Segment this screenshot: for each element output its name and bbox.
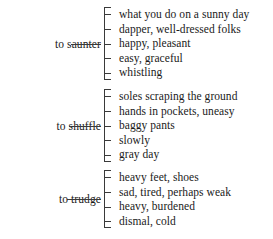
- list-item: baggy pants: [119, 118, 273, 133]
- list-item: sad, tired, perhaps weak: [119, 185, 273, 200]
- bracket-diagram: to saunterwhat you do on a sunny daydapp…: [0, 0, 273, 239]
- bracket-tick: [104, 14, 111, 15]
- bracket-tick: [104, 58, 111, 59]
- item-list: heavy feet, shoessad, tired, perhaps wea…: [113, 167, 273, 231]
- list-item: happy, pleasant: [119, 36, 273, 51]
- list-item: dapper, well-dressed folks: [119, 22, 273, 37]
- list-item: whistling: [119, 65, 273, 80]
- bracket-tick: [104, 140, 111, 141]
- bracket-tick: [104, 221, 111, 222]
- bracket-tick: [104, 177, 111, 178]
- item-list: what you do on a sunny daydapper, well-d…: [113, 4, 273, 83]
- bracket-container: [101, 167, 113, 231]
- group-label-container: to trudge: [0, 167, 101, 231]
- list-item: heavy, burdened: [119, 199, 273, 214]
- list-item: hands in pockets, uneasy: [119, 104, 273, 119]
- bracket-tick: [104, 192, 111, 193]
- bracket-tick: [104, 111, 111, 112]
- bracket-tick: [104, 207, 111, 208]
- list-item: easy, graceful: [119, 51, 273, 66]
- list-item: heavy feet, shoes: [119, 170, 273, 185]
- bracket-group: to trudgeheavy feet, shoessad, tired, pe…: [0, 167, 273, 231]
- bracket-tick: [104, 73, 111, 74]
- bracket-tick: [104, 126, 111, 127]
- bracket-container: [101, 86, 113, 165]
- bracket-shape: [104, 170, 111, 228]
- list-item: soles scraping the ground: [119, 89, 273, 104]
- bracket-tick: [104, 96, 111, 97]
- list-item: slowly: [119, 133, 273, 148]
- bracket-tick: [104, 155, 111, 156]
- bracket-tick: [104, 44, 111, 45]
- item-list: soles scraping the groundhands in pocket…: [113, 86, 273, 165]
- bracket-container: [101, 4, 113, 83]
- connector-line: [67, 199, 101, 200]
- list-item: dismal, cold: [119, 214, 273, 229]
- bracket-group: to saunterwhat you do on a sunny daydapp…: [0, 4, 273, 83]
- group-label-container: to saunter: [0, 4, 101, 83]
- bracket-tick: [104, 29, 111, 30]
- bracket-group: to shufflesoles scraping the groundhands…: [0, 86, 273, 165]
- connector-line: [71, 44, 101, 45]
- list-item: what you do on a sunny day: [119, 7, 273, 22]
- list-item: gray day: [119, 147, 273, 162]
- connector-line: [69, 126, 101, 127]
- group-label-container: to shuffle: [0, 86, 101, 165]
